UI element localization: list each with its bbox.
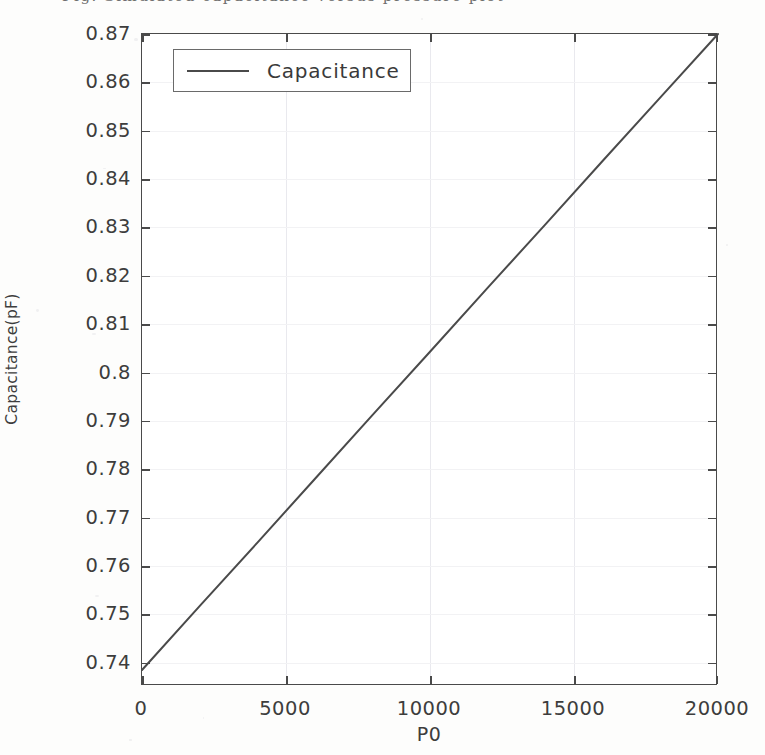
y-tick-label: 0.77 (11, 505, 131, 528)
y-tick-label: 0.85 (11, 118, 131, 141)
x-tick-label: 10000 (397, 697, 462, 720)
x-tick-label: 20000 (685, 697, 750, 720)
y-tick-label: 0.83 (11, 215, 131, 238)
plot-area: Capacitance (141, 33, 717, 685)
y-tick-label: 0.86 (11, 70, 131, 93)
y-tick-label: 0.82 (11, 263, 131, 286)
x-tick-label: 15000 (541, 697, 606, 720)
y-tick-label: 0.8 (11, 360, 131, 383)
x-tick-label: 0 (135, 697, 148, 720)
y-tick-label: 0.87 (11, 22, 131, 45)
y-tick-label: 0.84 (11, 167, 131, 190)
x-axis-title: P0 (417, 723, 442, 745)
x-tick-label: 5000 (259, 697, 311, 720)
y-tick-label: 0.78 (11, 457, 131, 480)
y-tick-label: 0.79 (11, 408, 131, 431)
capacitance-vs-p0-chart: Capacitance(pF) Capacitance 0.740.750.76… (0, 0, 765, 755)
series-capacitance-line (142, 34, 718, 686)
chart-legend: Capacitance (173, 49, 411, 92)
legend-line-swatch (187, 70, 249, 72)
y-tick-label: 0.75 (11, 602, 131, 625)
y-tick-label: 0.74 (11, 650, 131, 673)
y-tick-label: 0.76 (11, 554, 131, 577)
legend-label-capacitance: Capacitance (267, 59, 400, 83)
y-tick-label: 0.81 (11, 312, 131, 335)
